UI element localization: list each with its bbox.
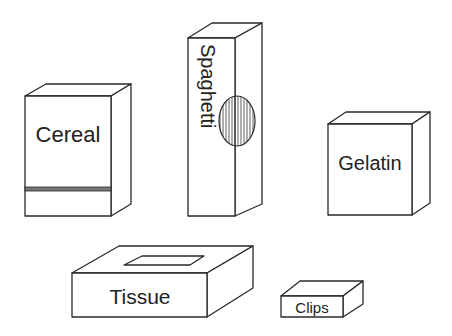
clips-box: Clips (281, 281, 363, 317)
cereal-stripe (25, 187, 111, 191)
tissue-label: Tissue (109, 285, 170, 308)
spaghetti-label: Spaghetti (197, 44, 219, 129)
gelatin-label: Gelatin (338, 152, 401, 174)
gelatin-box: Gelatin (328, 112, 430, 215)
boxes-diagram: Cereal Spaghetti Gelatin Tissue Clips (0, 0, 452, 336)
cereal-box: Cereal (25, 84, 131, 216)
spaghetti-window (219, 96, 255, 146)
cereal-label: Cereal (36, 122, 101, 147)
tissue-box: Tissue (72, 246, 253, 317)
spaghetti-box: Spaghetti (188, 23, 262, 216)
clips-label: Clips (295, 299, 328, 316)
